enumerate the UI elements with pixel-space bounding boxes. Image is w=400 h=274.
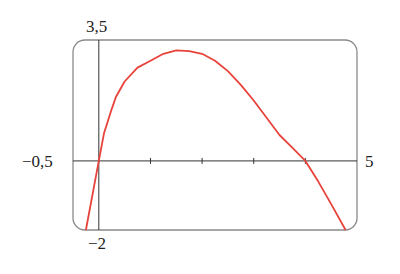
y-min-label: −2	[88, 235, 106, 252]
chart-svg	[0, 0, 400, 274]
x-min-label: −0,5	[22, 153, 53, 170]
y-max-label: 3,5	[86, 18, 107, 35]
x-max-label: 5	[365, 153, 374, 170]
plot-frame	[73, 40, 357, 230]
function-curve	[86, 50, 346, 230]
